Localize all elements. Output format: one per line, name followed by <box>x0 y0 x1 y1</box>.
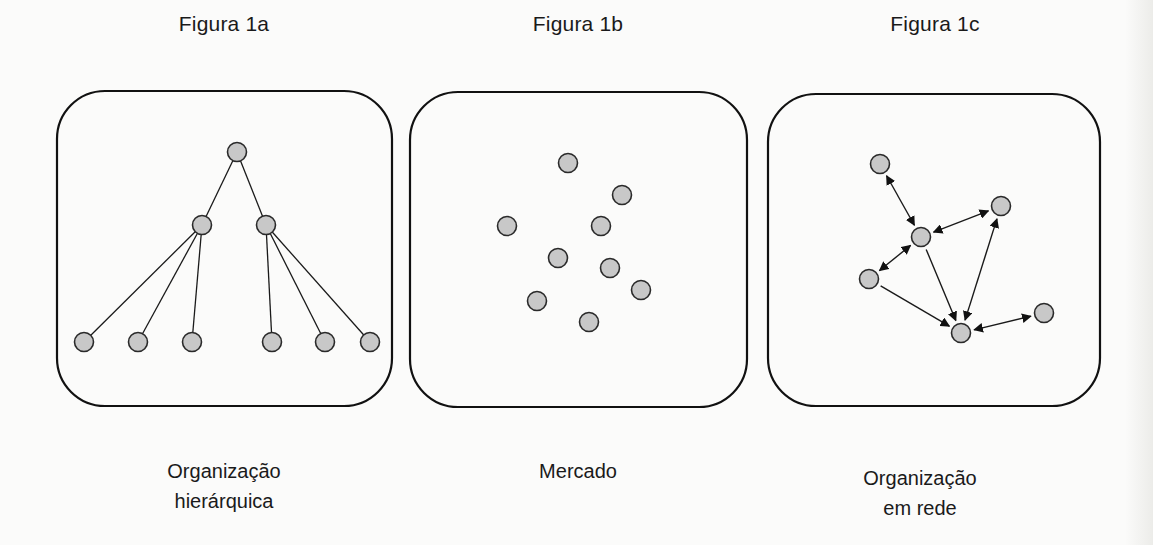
node-circle <box>361 333 380 352</box>
node-circle <box>193 216 212 235</box>
network-arrow <box>934 211 989 232</box>
node-circle <box>601 259 620 278</box>
hierarchy-link <box>138 225 202 342</box>
node-circle <box>592 217 611 236</box>
network-arrow <box>926 249 956 320</box>
node-circle <box>580 313 599 332</box>
node-circle <box>613 186 632 205</box>
figure-1a-caption: Organização hierárquica <box>104 456 344 516</box>
node-circle <box>183 333 202 352</box>
hierarchy-link <box>266 225 325 342</box>
network-arrow <box>965 219 997 320</box>
frame-2 <box>410 92 747 407</box>
hierarchy-link <box>237 152 266 225</box>
node-circle <box>498 217 517 236</box>
node-circle <box>1035 304 1054 323</box>
node-circle <box>549 249 568 268</box>
node-circle <box>528 292 547 311</box>
network-diagram <box>860 155 1054 343</box>
hierarchy-link <box>202 152 237 225</box>
hierarchy-link <box>192 225 202 342</box>
figure-frames <box>57 91 1100 407</box>
market-diagram <box>498 154 651 332</box>
node-circle <box>912 228 931 247</box>
node-circle <box>952 324 971 343</box>
hierarchy-diagram <box>75 143 380 352</box>
node-circle <box>632 281 651 300</box>
node-circle <box>75 333 94 352</box>
node-circle <box>316 333 335 352</box>
node-circle <box>228 143 247 162</box>
hierarchy-link <box>266 225 272 342</box>
figure-1b-caption: Mercado <box>458 456 698 486</box>
frame-1 <box>57 91 392 406</box>
hierarchy-link <box>84 225 202 342</box>
figure-1c-caption: Organização em rede <box>800 463 1040 523</box>
frame-3 <box>768 94 1100 406</box>
node-circle <box>263 333 282 352</box>
node-circle <box>871 155 890 174</box>
network-arrow <box>887 176 915 225</box>
hierarchy-link <box>266 225 370 342</box>
node-circle <box>992 197 1011 216</box>
node-circle <box>257 216 276 235</box>
node-circle <box>559 154 578 173</box>
network-arrow <box>880 245 911 270</box>
node-circle <box>860 270 879 289</box>
network-arrow <box>974 316 1031 330</box>
network-arrow <box>881 286 950 326</box>
node-circle <box>129 333 148 352</box>
figure-page: Figura 1a Figura 1b Figura 1c Organizaçã… <box>0 0 1153 545</box>
